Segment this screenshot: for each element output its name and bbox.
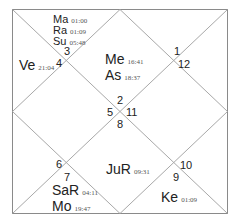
sign-number-5: 5 — [107, 107, 113, 118]
planet-degree: 04:11 — [82, 189, 98, 197]
planet-ke: Ke01:09 — [161, 190, 197, 208]
sign-number-4: 4 — [56, 58, 62, 69]
planet-ve: Ve21:04 — [19, 58, 54, 76]
planet-degree: 19:47 — [74, 205, 90, 213]
planet-degree: 01:09 — [181, 196, 197, 204]
sign-number-3: 3 — [64, 46, 70, 57]
planet-jur: JuR09:31 — [106, 162, 150, 180]
sign-number-8: 8 — [117, 119, 123, 130]
planet-degree: 09:31 — [134, 168, 150, 176]
planet-degree: 05:48 — [69, 39, 85, 47]
planet-degree: 18:37 — [124, 74, 140, 82]
planet-name: JuR — [106, 161, 131, 177]
sign-number-10: 10 — [180, 160, 192, 171]
planet-degree: 01:09 — [70, 28, 86, 36]
sign-number-6: 6 — [56, 159, 62, 170]
planet-name: Ke — [161, 189, 178, 205]
planet-name: Me — [105, 51, 124, 67]
planet-degree: 01:00 — [71, 17, 87, 25]
sign-number-11: 11 — [126, 107, 137, 118]
planet-mo: Mo19:47 — [52, 199, 90, 217]
planet-as: As18:37 — [105, 68, 140, 86]
planet-name: SaR — [52, 182, 79, 198]
sign-number-9: 9 — [173, 172, 179, 183]
sign-number-1: 1 — [174, 46, 180, 57]
planet-degree: 21:04 — [38, 64, 54, 72]
planet-name: As — [105, 67, 121, 83]
sign-number-2: 2 — [117, 95, 123, 106]
birth-chart-diagram — [0, 0, 241, 224]
planet-name: Ve — [19, 57, 35, 73]
sign-number-12: 12 — [178, 59, 190, 70]
planet-name: Mo — [52, 198, 71, 214]
planet-degree: 16:41 — [127, 58, 143, 66]
